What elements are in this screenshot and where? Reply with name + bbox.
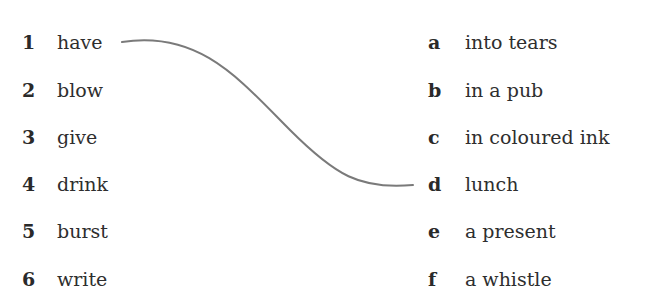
item-phrase: a present [465, 216, 556, 246]
item-number: 5 [22, 216, 35, 246]
item-word: have [57, 27, 103, 57]
item-number: 3 [22, 122, 35, 152]
item-number: 4 [22, 169, 35, 199]
item-word: write [57, 264, 107, 294]
item-word: blow [57, 75, 103, 105]
item-word: drink [57, 169, 108, 199]
item-word: give [57, 122, 97, 152]
item-phrase: lunch [465, 169, 518, 199]
item-letter: d [428, 169, 441, 199]
item-number: 6 [22, 264, 35, 294]
item-phrase: into tears [465, 27, 557, 57]
item-letter: b [428, 75, 441, 105]
item-number: 2 [22, 75, 35, 105]
item-letter: c [428, 122, 440, 152]
item-number: 1 [22, 27, 35, 57]
item-letter: f [428, 264, 436, 294]
item-letter: a [428, 27, 440, 57]
item-phrase: in a pub [465, 75, 543, 105]
item-word: burst [57, 216, 108, 246]
item-phrase: a whistle [465, 264, 552, 294]
item-phrase: in coloured ink [465, 122, 610, 152]
item-letter: e [428, 216, 440, 246]
